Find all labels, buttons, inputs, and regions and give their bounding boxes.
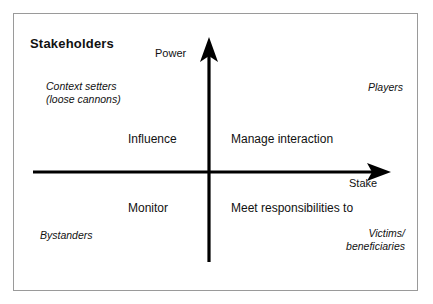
quadrant-label-context-setters-line2: (loose cannons) — [46, 93, 121, 106]
action-label-influence: Influence — [128, 132, 177, 146]
quadrant-label-victims-line1: Victims/ — [0, 227, 405, 240]
quadrant-label-victims-beneficiaries: Victims/ beneficiaries — [0, 227, 405, 253]
quadrant-label-players: Players — [0, 81, 403, 94]
axes-group — [0, 0, 433, 304]
diagram-canvas: Stakeholders Power Stake Context setters… — [0, 0, 433, 304]
action-label-manage-interaction: Manage interaction — [231, 132, 333, 146]
action-label-monitor: Monitor — [128, 201, 168, 215]
axis-label-stake: Stake — [349, 177, 377, 189]
axis-label-power: Power — [155, 47, 186, 59]
quadrant-label-victims-line2: beneficiaries — [0, 240, 405, 253]
action-label-meet-responsibilities: Meet responsibilities to — [231, 201, 353, 215]
